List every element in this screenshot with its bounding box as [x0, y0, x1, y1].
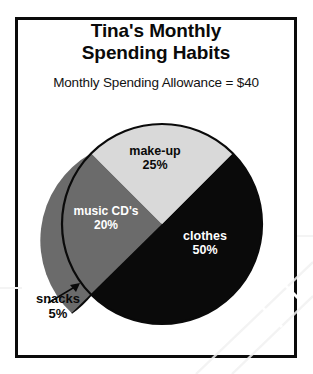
pie-label-snacks-value: 5%: [21, 307, 95, 322]
page-title: Tina's Monthly Spending Habits: [18, 20, 294, 64]
pie-label-music-cds: music CD's 20%: [56, 205, 156, 233]
pie-label-clothes-name: clothes: [168, 229, 242, 243]
pie-label-make-up-value: 25%: [107, 158, 203, 172]
pie-label-snacks-name: snacks: [21, 292, 95, 307]
pie-label-clothes: clothes 50%: [168, 229, 242, 258]
chart-title-line-1: Tina's Monthly: [18, 20, 294, 42]
pie-label-make-up-name: make-up: [107, 144, 203, 158]
chart-subtitle: Monthly Spending Allowance = $40: [18, 64, 294, 90]
pie-label-music-cds-name: music CD's: [56, 205, 156, 219]
pie-label-clothes-value: 50%: [168, 243, 242, 257]
pie-label-make-up: make-up 25%: [107, 144, 203, 173]
pie-label-music-cds-value: 20%: [56, 219, 156, 233]
pie-label-snacks: snacks 5%: [21, 292, 95, 322]
chart-header: Tina's Monthly Spending Habits Monthly S…: [18, 20, 294, 90]
chart-title-line-2: Spending Habits: [18, 42, 294, 64]
